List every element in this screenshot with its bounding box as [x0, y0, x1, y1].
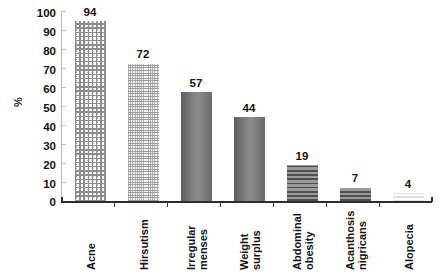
bar-value-label: 72 — [123, 49, 163, 61]
x-axis-end-cap — [431, 197, 433, 202]
plot-area — [0, 0, 439, 276]
x-category-label-alopecia: Alopecia — [404, 224, 416, 270]
bar-abdominal-obesity[interactable] — [287, 165, 318, 201]
bar-value-label: 94 — [70, 7, 110, 19]
x-axis-tick — [167, 202, 168, 207]
bar-hirsutism[interactable] — [128, 64, 159, 202]
x-category-label-acanthosis-nigricans: Acanthosis nigricans — [345, 211, 368, 270]
bar-value-label: 57 — [176, 78, 216, 90]
bar-acanthosis-nigricans[interactable] — [340, 188, 371, 201]
x-axis-tick — [220, 202, 221, 207]
bar-weight-surplus[interactable] — [234, 117, 265, 201]
bar-alopecia[interactable] — [393, 193, 424, 201]
x-axis-start-cap — [61, 197, 63, 202]
bar-value-label: 19 — [282, 151, 322, 163]
bar-value-label: 44 — [229, 103, 269, 115]
x-axis-tick — [273, 202, 274, 207]
x-axis-tick — [379, 202, 380, 207]
bar-chart: % 100 90 80 70 60 50 40 30 20 10 0 94 72… — [0, 0, 439, 276]
x-category-label-weight-surplus: Weight surplus — [239, 230, 262, 270]
x-category-label-abdominal-obesity: Abdominal obesity — [292, 213, 315, 270]
x-category-label-hirsutism: Hirsutism — [139, 219, 151, 270]
bar-value-label: 4 — [388, 179, 428, 191]
x-axis-tick — [326, 202, 327, 207]
x-axis-tick — [114, 202, 115, 207]
bar-irregular-menses[interactable] — [181, 92, 212, 201]
bar-value-label: 7 — [335, 173, 375, 185]
x-axis-line — [61, 201, 432, 203]
x-category-label-acne: Acne — [86, 243, 98, 270]
x-category-label-irregular-menses: Irregular menses — [186, 225, 209, 270]
bar-acne[interactable] — [75, 21, 106, 201]
